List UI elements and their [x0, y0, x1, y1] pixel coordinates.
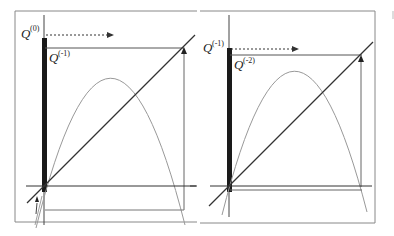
- right-parabola: [222, 71, 367, 215]
- left-panel: Q (0) Q (-1): [15, 11, 197, 228]
- left-top-label: Q (0): [21, 24, 40, 41]
- right-thick-bar: [227, 48, 232, 192]
- right-panel: Q (-1) Q (-2): [190, 11, 375, 223]
- right-inner-label: Q (-2): [234, 56, 255, 72]
- right-frame: [200, 11, 375, 223]
- left-small-arrow-line: [36, 203, 37, 214]
- left-inner-label: Q (-1): [49, 49, 70, 65]
- svg-text:(-1): (-1): [212, 39, 224, 48]
- left-parabola: [36, 78, 185, 228]
- right-top-label: Q (-1): [203, 39, 224, 55]
- cobweb-diagram: Q (0) Q (-1) Q (-1): [0, 0, 394, 236]
- left-thick-bar: [42, 38, 47, 192]
- svg-text:(0): (0): [30, 24, 40, 33]
- svg-text:(-2): (-2): [243, 56, 255, 65]
- svg-text:(-1): (-1): [58, 49, 70, 58]
- left-small-up-arrow: [35, 196, 39, 202]
